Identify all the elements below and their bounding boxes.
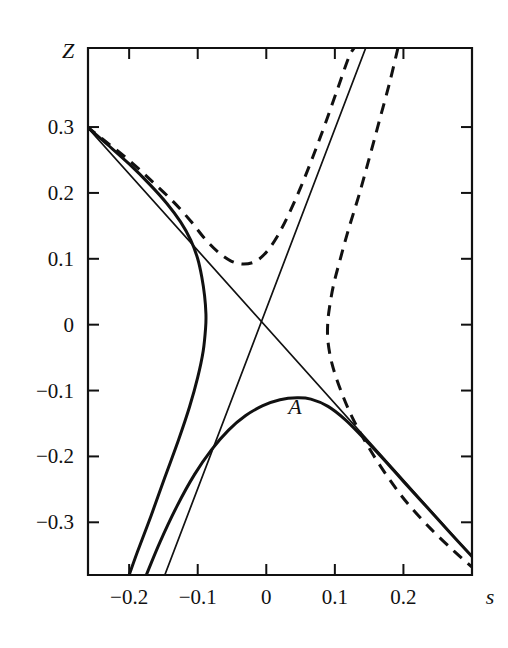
y-tick-label: 0.3 bbox=[48, 115, 74, 139]
y-tick-label: 0.1 bbox=[48, 247, 74, 271]
y-tick-label: −0.2 bbox=[36, 444, 74, 468]
x-tick-label: 0.2 bbox=[390, 585, 416, 609]
data-curve bbox=[165, 48, 366, 575]
y-tick-label: −0.1 bbox=[36, 379, 74, 403]
x-tick-labels-group: −0.2−0.100.10.2 bbox=[110, 585, 416, 609]
data-curves-group bbox=[87, 48, 472, 575]
data-curve bbox=[327, 48, 472, 567]
x-tick-label: −0.1 bbox=[179, 585, 217, 609]
curve-label-A: A bbox=[286, 394, 302, 419]
x-tick-label: 0.1 bbox=[322, 585, 348, 609]
axes-frame bbox=[88, 48, 472, 575]
y-axis-title: Z bbox=[62, 38, 75, 63]
data-curve bbox=[146, 398, 472, 575]
curve-annotations-group: A bbox=[286, 394, 302, 419]
figure-panel: −0.2−0.100.10.2 0.30.20.10−0.1−0.2−0.3 A… bbox=[0, 0, 508, 648]
y-tick-label: −0.3 bbox=[36, 510, 74, 534]
y-tick-labels-group: 0.30.20.10−0.1−0.2−0.3 bbox=[36, 115, 74, 534]
data-curve bbox=[87, 126, 472, 556]
x-tick-label: −0.2 bbox=[110, 585, 148, 609]
x-axis-title: s bbox=[486, 584, 495, 609]
data-curve bbox=[87, 48, 354, 264]
y-tick-label: 0 bbox=[64, 313, 75, 337]
tick-marks-group bbox=[88, 48, 472, 575]
y-tick-label: 0.2 bbox=[48, 181, 74, 205]
axis-frame-path bbox=[88, 48, 472, 575]
scientific-plot: −0.2−0.100.10.2 0.30.20.10−0.1−0.2−0.3 A… bbox=[0, 0, 508, 648]
x-tick-label: 0 bbox=[261, 585, 272, 609]
